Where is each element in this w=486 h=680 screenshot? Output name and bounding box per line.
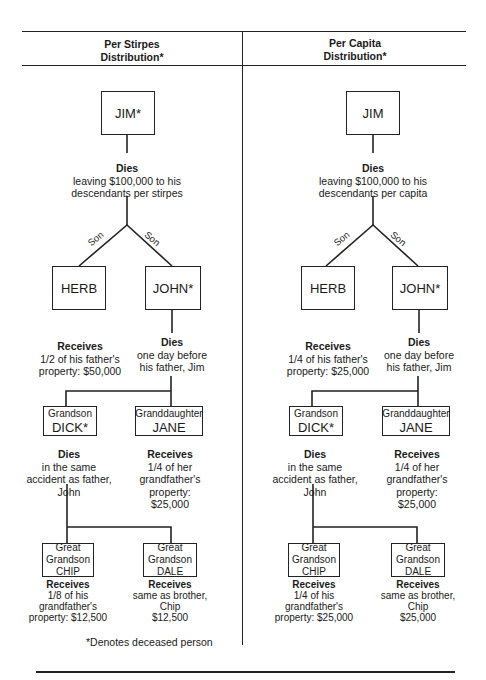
event-line: 1/4 of his [268, 590, 360, 601]
event-line: John [264, 486, 366, 499]
event-line: property: $25,000 [268, 612, 360, 623]
event-text-jim: Dies leaving $100,000 to his descendants… [303, 162, 443, 200]
event-line: $25,000 [372, 498, 462, 511]
event-line: descendants per capita [303, 187, 443, 200]
person-box-dick: Grandson DICK* [289, 406, 343, 436]
person-role: Great [405, 542, 430, 554]
person-role: Grandson [294, 408, 338, 420]
person-name: DICK* [298, 420, 334, 435]
event-line: accident as father, [264, 473, 366, 486]
event-line: his father, Jim [373, 361, 465, 374]
event-title: Receives [372, 448, 462, 461]
event-text-chip: Receives 1/4 of his grandfather's proper… [268, 579, 360, 623]
event-line: leaving $100,000 to his [303, 175, 443, 188]
event-line: grandfather's [372, 473, 462, 486]
person-name: DALE [405, 566, 431, 578]
event-line: in the same [264, 461, 366, 474]
event-text-herb: Receives 1/4 of his father's property: $… [270, 340, 386, 378]
event-line: 1/4 of his father's [270, 353, 386, 366]
event-line: property: [372, 486, 462, 499]
event-line: grandfather's [268, 601, 360, 612]
person-name: HERB [310, 281, 346, 296]
person-box-jim: JIM [346, 91, 400, 135]
event-line: 1/4 of her [372, 461, 462, 474]
event-line: property: $25,000 [270, 365, 386, 378]
person-box-herb: HERB [301, 266, 355, 310]
event-text-dale: Receives same as brother, Chip $25,000 [373, 579, 463, 623]
event-text-john: Dies one day before his father, Jim [373, 336, 465, 374]
event-title: Dies [264, 448, 366, 461]
event-title: Dies [373, 336, 465, 349]
person-name: JIM [363, 106, 384, 121]
event-text-dick: Dies in the same accident as father, Joh… [264, 448, 366, 498]
person-name: JOHN* [400, 281, 440, 296]
event-line: Chip [373, 601, 463, 612]
person-box-john: JOHN* [392, 266, 448, 310]
event-title: Receives [373, 579, 463, 590]
footnote: *Denotes deceased person [86, 636, 213, 648]
event-line: one day before [373, 349, 465, 362]
person-name: JANE [399, 420, 432, 435]
person-role: Grandson [292, 554, 336, 566]
person-role: Great [301, 542, 326, 554]
event-line: $25,000 [373, 612, 463, 623]
event-title: Receives [268, 579, 360, 590]
event-text-jane: Receives 1/4 of her grandfather's proper… [372, 448, 462, 511]
person-role: Granddaughter [382, 408, 449, 420]
person-box-jane: Granddaughter JANE [382, 406, 450, 436]
event-line: same as brother, [373, 590, 463, 601]
event-title: Receives [270, 340, 386, 353]
person-box-chip: Great Grandson CHIP [288, 543, 340, 577]
person-role: Grandson [396, 554, 440, 566]
event-title: Dies [303, 162, 443, 175]
person-name: CHIP [302, 566, 326, 578]
person-box-dale: Great Grandson DALE [391, 543, 445, 577]
